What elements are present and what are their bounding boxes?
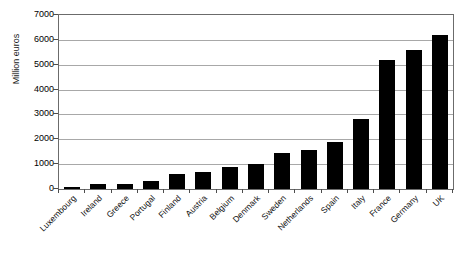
bar <box>274 153 290 189</box>
y-axis-tick-label: 7000 <box>20 10 54 19</box>
bar-chart: Million euros 70006000500040003000200010… <box>0 0 462 254</box>
bar <box>379 60 395 189</box>
y-axis-tick-label: 1000 <box>20 159 54 168</box>
bar <box>222 167 238 189</box>
bar <box>432 35 448 189</box>
y-axis-tick-label: 6000 <box>20 35 54 44</box>
bar <box>301 150 317 189</box>
bars-layer <box>59 15 453 189</box>
bar <box>169 174 185 189</box>
x-axis-tick-labels: LuxembourgIrelandGreecePortugalFinlandAu… <box>58 193 452 253</box>
bar <box>406 50 422 189</box>
bar <box>353 119 369 189</box>
y-axis-tick-label: 3000 <box>20 109 54 118</box>
bar <box>248 164 264 189</box>
bar <box>143 181 159 189</box>
y-axis-tick-label: 4000 <box>20 85 54 94</box>
y-axis-tick-label: 2000 <box>20 134 54 143</box>
y-axis-tick-label: 5000 <box>20 60 54 69</box>
y-axis-tick-label: 0 <box>20 184 54 193</box>
bar <box>195 172 211 189</box>
bar <box>327 142 343 189</box>
plot-area <box>58 14 454 190</box>
x-axis-tick <box>452 189 453 193</box>
